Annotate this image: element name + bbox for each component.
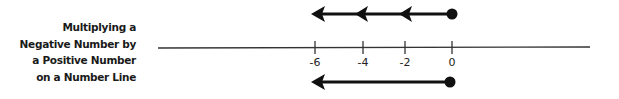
tick-label-neg2: -2 <box>400 56 411 69</box>
tick-label-neg6: -6 <box>310 56 321 69</box>
top-jump-arrow <box>311 6 458 22</box>
bottom-start-dot-icon <box>445 77 456 88</box>
number-line-diagram: -6 -4 -2 0 <box>0 0 619 99</box>
tick-label-neg4: -4 <box>358 56 369 69</box>
top-start-dot-icon <box>447 9 458 20</box>
tick-label-zero: 0 <box>449 56 456 69</box>
bottom-jump-arrow <box>311 74 456 90</box>
number-line-axis: -6 -4 -2 0 <box>158 41 590 69</box>
axis-line <box>158 47 590 48</box>
